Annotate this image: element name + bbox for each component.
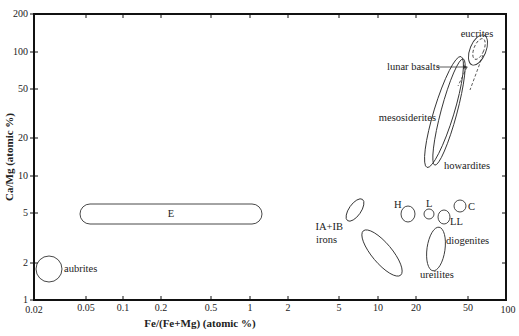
svg-text:50: 50: [463, 302, 473, 313]
x-tick-labels: 0.02 0.05 0.1 0.2 0.5 1 2 5 10 20 50 100: [25, 302, 515, 315]
y-axis-title: Ca/Mg (atomic %): [3, 113, 16, 201]
region-C: [454, 200, 466, 212]
label-eucrites: eucrites: [461, 28, 494, 39]
svg-text:50: 50: [18, 83, 28, 94]
svg-text:100: 100: [13, 46, 28, 57]
x-axis-ticks: [86, 14, 468, 300]
region-ureilites: [356, 224, 409, 281]
label-E: E: [168, 208, 174, 219]
region-eucrites-inner: [470, 37, 488, 61]
label-mesosiderites: mesosiderites: [379, 112, 436, 123]
svg-text:20: 20: [411, 302, 421, 313]
svg-text:0.05: 0.05: [77, 302, 95, 313]
plot-frame: [34, 14, 506, 300]
ca-mg-vs-fe-chart: 0.02 0.05 0.1 0.2 0.5 1 2 5 10 20 50 100…: [0, 0, 519, 336]
svg-text:10: 10: [373, 302, 383, 313]
label-L: L: [426, 198, 432, 209]
label-irons: irons: [316, 234, 337, 245]
svg-text:1: 1: [248, 302, 253, 313]
region-aubrites: [36, 256, 62, 282]
region-ia-ib-irons: [343, 196, 368, 224]
svg-text:2: 2: [23, 257, 28, 268]
label-diogenites: diogenites: [446, 235, 489, 246]
svg-text:200: 200: [13, 8, 28, 19]
x-axis-title: Fe/(Fe+Mg) (atomic %): [144, 317, 256, 330]
svg-text:0.2: 0.2: [155, 302, 168, 313]
label-aubrites: aubrites: [64, 263, 97, 274]
label-ureilites: ureilites: [420, 269, 454, 280]
svg-text:5: 5: [23, 207, 28, 218]
svg-text:100: 100: [501, 304, 516, 315]
svg-text:20: 20: [18, 132, 28, 143]
svg-text:1: 1: [23, 294, 28, 305]
svg-text:5: 5: [337, 302, 342, 313]
y-tick-labels: 1 2 5 10 20 50 100 200: [13, 8, 28, 305]
svg-text:0.1: 0.1: [117, 302, 130, 313]
label-LL: LL: [450, 216, 463, 227]
y-axis-ticks: [30, 14, 506, 300]
label-howardites: howardites: [444, 160, 490, 171]
label-lunar-basalts: lunar basalts: [387, 61, 440, 72]
label-C: C: [468, 201, 475, 212]
region-H: [401, 206, 415, 222]
label-ia-ib: IA+IB: [315, 221, 343, 232]
svg-text:2: 2: [286, 302, 291, 313]
svg-text:0.02: 0.02: [25, 304, 43, 315]
region-lunar-basalts: [458, 55, 483, 90]
region-LL: [438, 210, 450, 224]
label-H: H: [394, 199, 402, 210]
svg-text:0.5: 0.5: [205, 302, 218, 313]
svg-text:10: 10: [18, 170, 28, 181]
region-L: [424, 209, 434, 219]
region-diogenites: [424, 226, 448, 272]
regions: aubrites E IA+IB irons ureilites H L LL …: [36, 28, 493, 282]
